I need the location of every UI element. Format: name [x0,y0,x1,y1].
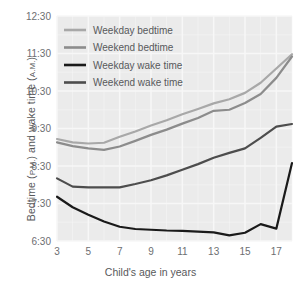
y-axis-tick-label: 12:30 [26,11,51,22]
y-axis-tick-label: 11:30 [27,48,52,59]
y-axis-tick-label: 6:30 [32,236,52,247]
y-axis-tick-label: 9:30 [32,123,52,134]
y-axis-tick-label: 7:30 [32,198,52,209]
x-axis-tick-label: 17 [271,246,283,257]
chart-figure: 6:307:308:309:3010:3011:3012:30 35791113… [0,0,301,285]
x-axis-tick-label: 13 [208,246,220,257]
x-axis-tick-label: 15 [239,246,251,257]
x-axis-title-text: Child's age in years [105,266,196,278]
x-axis-tick-labels: 357911131517 [54,246,282,257]
y-axis-tick-label: 10:30 [26,86,51,97]
y-axis-tick-labels: 6:307:308:309:3010:3011:3012:30 [26,11,51,247]
x-axis-tick-label: 9 [148,246,154,257]
x-axis-tick-label: 7 [117,246,123,257]
legend-label: Weekday bedtime [93,25,173,36]
x-axis-tick-label: 5 [86,246,92,257]
x-axis-tick-label: 3 [54,246,60,257]
x-axis-tick-label: 11 [177,246,188,257]
legend-label: Weekend wake time [93,77,183,88]
x-axis-title: Child's age in years [0,262,301,280]
legend-label: Weekday wake time [93,60,183,71]
legend-label: Weekend bedtime [93,42,174,53]
line-chart: 6:307:308:309:3010:3011:3012:30 35791113… [0,0,301,285]
y-axis-tick-label: 8:30 [32,161,52,172]
